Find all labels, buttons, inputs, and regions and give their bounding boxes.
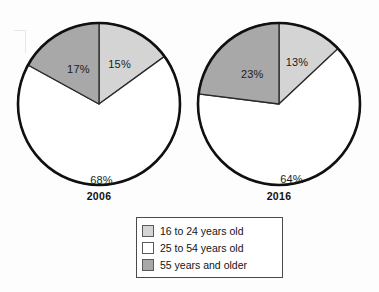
legend-item-25-54: 25 to 54 years old (142, 239, 277, 256)
pie-chart-figure: 15% 68% 17% 2006 13% 64% 23% 2016 16 to … (0, 0, 379, 292)
legend-label-16-24: 16 to 24 years old (160, 225, 243, 237)
slice-label-55-plus-2006: 17% (67, 63, 90, 75)
year-label-2016: 2016 (197, 190, 361, 202)
slice-label-25-54-2016: 64% (280, 173, 303, 185)
year-label-2006: 2006 (17, 190, 181, 202)
pie-chart-2016: 13% 64% 23% (197, 22, 361, 186)
legend-swatch-16-24 (142, 225, 154, 237)
slice-label-16-24-2006: 15% (108, 58, 131, 70)
chart-legend: 16 to 24 years old 25 to 54 years old 55… (136, 217, 283, 278)
legend-swatch-55-plus (142, 259, 154, 271)
legend-item-55-plus: 55 years and older (142, 256, 277, 273)
pie-chart-2006: 15% 68% 17% (17, 22, 181, 186)
legend-label-25-54: 25 to 54 years old (160, 242, 243, 254)
pie-2016-svg (197, 22, 361, 186)
legend-item-16-24: 16 to 24 years old (142, 222, 277, 239)
pie-2006-svg (17, 22, 181, 186)
slice-label-16-24-2016: 13% (286, 56, 309, 68)
legend-swatch-25-54 (142, 242, 154, 254)
legend-label-55-plus: 55 years and older (160, 259, 247, 271)
slice-label-55-plus-2016: 23% (241, 68, 264, 80)
slice-label-25-54-2006: 68% (90, 174, 113, 186)
